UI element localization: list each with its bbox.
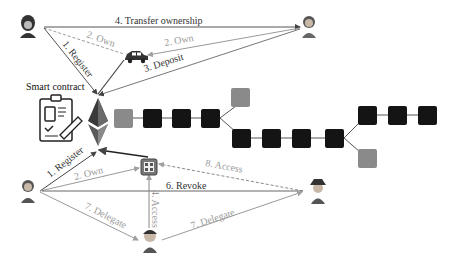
label-access-dashed: 8. Access: [205, 157, 244, 174]
person-hat-icon: [310, 179, 326, 204]
block: [325, 129, 344, 148]
car-icon: [125, 51, 148, 63]
label-own-car: 2. Own: [163, 32, 194, 48]
block: [262, 129, 281, 148]
smart-contract-clipboard-icon: [40, 95, 82, 141]
diagram-canvas: 4. Transfer ownership 2. Own 2. Own 1. R…: [0, 0, 458, 267]
block: [388, 106, 407, 125]
label-access-vertical: 4. Access: [150, 190, 161, 228]
smart-contract-label: Smart contract: [26, 81, 85, 92]
device-to-contract-edge: [99, 150, 148, 157]
label-deposit: 3. Deposit: [142, 51, 185, 74]
label-delegate-left: 7. Delegate: [83, 200, 129, 231]
ethereum-icon: [88, 98, 108, 146]
block: [201, 109, 220, 128]
person-cap-icon: [143, 230, 157, 253]
block-orphan: [231, 88, 250, 107]
block: [232, 129, 251, 148]
delegate-left-edge: [40, 192, 138, 240]
label-register-top: 1. Register: [60, 38, 96, 79]
iot-chip-icon: [141, 159, 157, 175]
block: [143, 109, 162, 128]
block: [358, 106, 377, 125]
block: [172, 109, 191, 128]
person-owner-icon: [21, 180, 35, 203]
label-own-dashed: 2. Own: [85, 29, 116, 49]
label-transfer-ownership: 4. Transfer ownership: [115, 15, 203, 26]
block-orphan: [114, 109, 133, 128]
block: [418, 106, 437, 125]
bottom-edges: [40, 150, 303, 240]
blockchain: [114, 88, 437, 168]
label-delegate-right: 7. Delegate: [189, 206, 236, 231]
person-hooded-icon: [20, 15, 36, 38]
label-revoke: 6. Revoke: [166, 180, 207, 191]
block: [292, 129, 311, 148]
car-to-contract-edge: [98, 60, 124, 94]
block-orphan: [358, 149, 377, 168]
person-icon: [302, 16, 316, 38]
